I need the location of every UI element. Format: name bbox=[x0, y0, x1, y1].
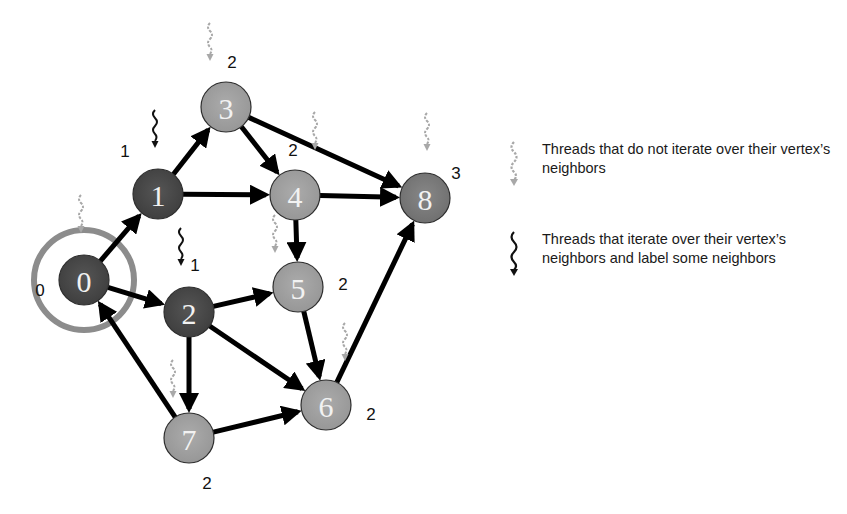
legend-text-idle-threads: Threads that do not iterate over their v… bbox=[542, 140, 840, 178]
vertex-5: 5 bbox=[273, 262, 323, 312]
legend-item-active-threads: Threads that iterate over their vertex’s… bbox=[500, 230, 840, 278]
vertex-id-label: 6 bbox=[319, 390, 334, 423]
idle-thread-icon bbox=[207, 23, 214, 61]
vertex-4-level-label: 2 bbox=[288, 141, 297, 160]
vertex-6-level-label: 2 bbox=[366, 405, 375, 424]
vertex-7-level-label: 2 bbox=[202, 474, 211, 493]
vertex-4: 4 bbox=[270, 170, 320, 220]
edge-7-to-0 bbox=[100, 304, 175, 417]
idle-thread-icon bbox=[272, 215, 279, 253]
vertex-id-label: 7 bbox=[182, 423, 197, 456]
idle-thread-icon bbox=[342, 323, 349, 361]
active-thread-icon bbox=[178, 228, 185, 266]
idle-thread-icon bbox=[78, 195, 85, 233]
vertex-id-label: 5 bbox=[291, 272, 306, 305]
idle-thread-icon bbox=[500, 140, 530, 188]
vertex-3: 3 bbox=[201, 82, 251, 132]
edge-1-to-3 bbox=[173, 130, 208, 174]
edge-5-to-6 bbox=[304, 311, 320, 376]
vertex-id-label: 0 bbox=[77, 265, 92, 298]
vertex-8-level-label: 3 bbox=[451, 164, 460, 183]
vertex-7: 7 bbox=[164, 413, 214, 463]
vertex-0: 0 bbox=[59, 255, 109, 305]
edge-4-to-8 bbox=[320, 196, 396, 198]
vertex-id-label: 8 bbox=[418, 183, 433, 216]
vertex-id-label: 4 bbox=[288, 180, 303, 213]
active-thread-icon bbox=[152, 110, 159, 148]
idle-thread-icon bbox=[312, 112, 319, 150]
idle-thread-icon bbox=[424, 113, 431, 151]
vertex-3-level-label: 2 bbox=[227, 53, 236, 72]
vertex-1: 1 bbox=[133, 169, 183, 219]
vertex-2: 2 bbox=[164, 287, 214, 337]
vertex-id-label: 1 bbox=[151, 179, 166, 212]
edge-7-to-6 bbox=[213, 412, 298, 432]
idle-thread-icon bbox=[170, 360, 177, 398]
edge-6-to-8 bbox=[337, 224, 413, 382]
edge-3-to-8 bbox=[249, 117, 399, 186]
vertex-id-label: 2 bbox=[182, 297, 197, 330]
vertex-6: 6 bbox=[301, 380, 351, 430]
edge-4-to-5 bbox=[296, 220, 297, 258]
edge-3-to-4 bbox=[241, 127, 277, 173]
vertex-2-level-label: 1 bbox=[190, 256, 199, 275]
edge-2-to-5 bbox=[213, 293, 269, 306]
vertex-8: 8 bbox=[400, 173, 450, 223]
vertex-id-label: 3 bbox=[219, 92, 234, 125]
legend-item-idle-threads: Threads that do not iterate over their v… bbox=[500, 140, 840, 188]
edge-2-to-6 bbox=[210, 326, 302, 389]
legend-text-active-threads: Threads that iterate over their vertex’s… bbox=[542, 230, 840, 268]
edge-1-to-4 bbox=[183, 194, 266, 195]
vertex-0-level-label: 0 bbox=[35, 281, 44, 300]
active-thread-icon bbox=[500, 230, 530, 278]
vertex-5-level-label: 2 bbox=[338, 275, 347, 294]
vertex-1-level-label: 1 bbox=[120, 142, 129, 161]
